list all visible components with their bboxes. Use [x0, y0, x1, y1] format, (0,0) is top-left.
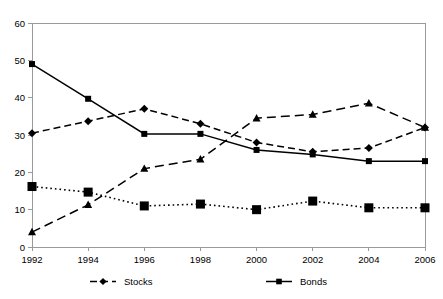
data-point	[365, 144, 373, 152]
data-point	[196, 120, 204, 128]
data-point	[421, 203, 430, 212]
data-point	[308, 197, 317, 206]
data-point	[140, 201, 149, 210]
series-stocks	[28, 105, 429, 156]
x-tick-2004: 2004	[358, 254, 379, 265]
legend-label: Bonds	[300, 276, 327, 287]
legend-item-bonds[interactable]: Bonds	[266, 276, 327, 287]
data-point	[197, 131, 203, 137]
x-tick-2006: 2006	[414, 254, 435, 265]
chart-container: 0102030405060 19921994199619982000200220…	[0, 0, 443, 299]
data-point	[254, 147, 260, 153]
series-line	[32, 64, 425, 161]
y-tick-40: 40	[14, 92, 25, 103]
x-tick-1998: 1998	[190, 254, 211, 265]
legend-item-stocks[interactable]: Stocks	[90, 276, 153, 287]
x-tick-1996: 1996	[134, 254, 155, 265]
data-point	[196, 200, 205, 209]
legend-marker-diamond	[99, 278, 106, 285]
data-point	[252, 205, 261, 214]
y-tick-50: 50	[14, 55, 25, 66]
y-tick-60: 60	[14, 18, 25, 29]
y-tick-10: 10	[14, 204, 25, 215]
data-point	[85, 96, 91, 102]
legend-label: Stocks	[124, 276, 153, 287]
data-point	[28, 228, 36, 235]
data-point	[84, 188, 93, 197]
data-point	[140, 105, 148, 113]
data-point	[28, 129, 36, 137]
data-point	[141, 131, 147, 137]
series-unlabeled-3	[28, 182, 430, 214]
data-point	[29, 61, 35, 67]
x-tick-1992: 1992	[21, 254, 42, 265]
chart-legend: StocksBonds	[90, 276, 327, 287]
x-axis-tick-labels: 19921994199619982000200220042006	[21, 254, 435, 265]
y-axis-tick-labels: 0102030405060	[14, 18, 25, 253]
x-tick-2000: 2000	[246, 254, 267, 265]
y-tick-30: 30	[14, 130, 25, 141]
x-tick-1994: 1994	[78, 254, 99, 265]
series-line	[32, 103, 425, 232]
x-tick-2002: 2002	[302, 254, 323, 265]
data-point	[28, 182, 37, 191]
y-tick-0: 0	[20, 242, 25, 253]
data-series-layer	[28, 61, 430, 235]
data-point	[196, 155, 204, 162]
data-point	[310, 151, 316, 157]
data-point	[365, 99, 373, 106]
line-chart-plot: 0102030405060 19921994199619982000200220…	[0, 0, 443, 299]
data-point	[422, 158, 428, 164]
y-tick-20: 20	[14, 167, 25, 178]
data-point	[253, 138, 261, 146]
data-point	[84, 117, 92, 125]
series-line	[32, 109, 425, 152]
chart-axes	[28, 23, 425, 251]
data-point	[364, 203, 373, 212]
legend-marker-square	[276, 279, 282, 285]
data-point	[84, 201, 92, 208]
data-point	[366, 158, 372, 164]
